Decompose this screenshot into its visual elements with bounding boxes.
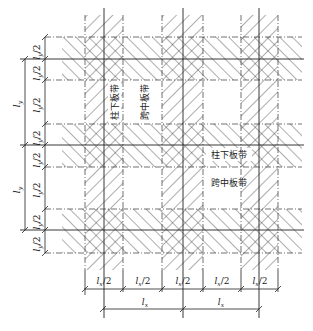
svg-text:ly/2: ly/2 xyxy=(32,152,44,167)
column-strip-label-horizontal: 柱下板带 xyxy=(211,149,247,160)
svg-text:lx/2: lx/2 xyxy=(214,276,229,287)
svg-text:ly/2: ly/2 xyxy=(32,182,44,197)
vertical-column-strips xyxy=(85,15,278,270)
svg-text:lx: lx xyxy=(142,297,149,308)
svg-text:ly/2: ly/2 xyxy=(32,236,44,251)
svg-text:ly/2: ly/2 xyxy=(32,97,44,112)
svg-text:lx: lx xyxy=(218,297,225,308)
col-strip-2 xyxy=(162,15,203,270)
left-span-labels: ly ly xyxy=(12,100,24,193)
col-strip-3 xyxy=(241,15,278,270)
column-strip-label-vertical: 柱下板带 xyxy=(109,84,120,120)
svg-text:ly/2: ly/2 xyxy=(32,214,44,229)
svg-text:lx/2: lx/2 xyxy=(135,276,150,287)
svg-text:ly: ly xyxy=(12,186,24,193)
middle-strip-label-vertical: 跨中板带 xyxy=(139,84,150,120)
svg-text:ly/2: ly/2 xyxy=(32,44,44,59)
slab-strip-diagram: ly/2 ly/2 ly/2 ly/2 ly/2 ly/2 ly/2 ly/2 … xyxy=(0,0,313,331)
svg-text:lx/2: lx/2 xyxy=(252,276,267,287)
middle-strip-label-horizontal: 跨中板带 xyxy=(211,177,247,188)
svg-text:ly: ly xyxy=(12,100,24,107)
svg-text:ly/2: ly/2 xyxy=(32,130,44,145)
svg-text:lx/2: lx/2 xyxy=(175,276,190,287)
svg-text:lx/2: lx/2 xyxy=(96,276,111,287)
svg-text:ly/2: ly/2 xyxy=(32,65,44,80)
bottom-half-labels: lx/2 lx/2 lx/2 lx/2 lx/2 xyxy=(96,276,267,287)
